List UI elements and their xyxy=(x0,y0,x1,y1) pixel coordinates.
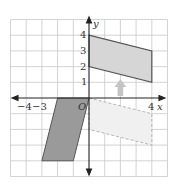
y-tick-3: 3 xyxy=(80,45,86,56)
x-tick-neg4: −4 xyxy=(17,101,32,112)
x-tick-neg3: −3 xyxy=(32,101,47,112)
graph-canvas: y x O −4 −3 4 4 3 2 1 xyxy=(0,0,175,190)
y-axis-down-arrow-icon xyxy=(87,169,92,175)
translation-arrow-icon xyxy=(115,79,127,96)
axes xyxy=(12,17,165,175)
y-axis-up-arrow-icon xyxy=(87,17,92,23)
coordinate-plane-diagram: y x O −4 −3 4 4 3 2 1 xyxy=(0,0,175,190)
x-axis-right-arrow-icon xyxy=(159,96,165,101)
origin-label: O xyxy=(78,101,86,112)
x-axis-left-arrow-icon xyxy=(12,96,18,101)
y-tick-1: 1 xyxy=(81,76,87,87)
y-axis-label: y xyxy=(92,18,99,29)
y-tick-4: 4 xyxy=(80,29,86,40)
y-tick-2: 2 xyxy=(80,61,86,72)
x-axis-label: x xyxy=(157,101,163,112)
x-tick-4: 4 xyxy=(148,101,154,112)
